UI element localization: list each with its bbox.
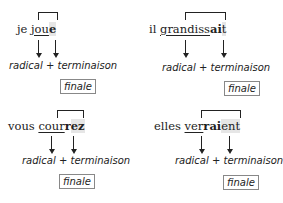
verb-form: il grandissait	[149, 22, 226, 36]
terminaison-bracket	[38, 12, 58, 20]
finale-box: finale	[224, 81, 260, 96]
terminaison-arrow	[73, 136, 74, 150]
terminaison-label: terminaison	[58, 60, 118, 71]
terminaison-part: e	[49, 22, 56, 36]
radical-label: radical	[22, 155, 56, 166]
plus-sign: +	[199, 62, 207, 73]
terminaison-arrow	[55, 40, 56, 54]
plus-sign: +	[212, 155, 220, 166]
finale-part: ent	[221, 119, 240, 133]
radical-terminaison-label: radical + terminaison	[22, 155, 130, 166]
terminaison-part: ai	[210, 22, 222, 36]
finale-box: finale	[60, 79, 96, 94]
radical-label: radical	[9, 60, 43, 71]
verb-form: vous courrez	[8, 119, 85, 133]
pronoun: elles	[154, 119, 181, 133]
terminaison-bracket	[201, 110, 241, 118]
radical-arrow	[185, 40, 186, 54]
verb-form: elles verraient	[154, 119, 240, 133]
finale-box: finale	[59, 174, 95, 189]
plus-sign: +	[46, 60, 54, 71]
pronoun: je	[17, 22, 27, 36]
pronoun: vous	[8, 119, 35, 133]
finale-part: t	[222, 22, 227, 36]
radical-part: jou	[31, 22, 49, 36]
example-elles-verraient: elles verraient radical + terminaison fi…	[141, 100, 282, 200]
verb-form: je joue	[17, 22, 56, 36]
terminaison-arrow	[223, 40, 224, 54]
radical-label: radical	[175, 155, 209, 166]
radical-label: radical	[162, 62, 196, 73]
radical-arrow	[201, 136, 202, 150]
radical-part: ver	[185, 119, 204, 133]
radical-terminaison-label: radical + terminaison	[9, 60, 117, 71]
radical-part: grandiss	[160, 22, 210, 36]
pronoun: il	[149, 22, 156, 36]
radical-arrow	[38, 40, 39, 54]
terminaison-label: terminaison	[224, 155, 283, 166]
example-je-joue: je joue radical + terminaison finale	[0, 0, 141, 100]
terminaison-label: terminaison	[71, 155, 131, 166]
finale-box: finale	[223, 175, 259, 190]
terminaison-arrow	[229, 136, 230, 150]
terminaison-part: rai	[203, 119, 221, 133]
finale-part: ez	[71, 119, 85, 133]
radical-terminaison-label: radical + terminaison	[175, 155, 283, 166]
terminaison-bracket	[57, 110, 84, 118]
plus-sign: +	[59, 155, 67, 166]
terminaison-bracket	[185, 12, 226, 20]
radical-arrow	[51, 136, 52, 150]
terminaison-label: terminaison	[211, 62, 271, 73]
terminaison-part: r	[65, 119, 71, 133]
radical-terminaison-label: radical + terminaison	[162, 62, 270, 73]
example-vous-courrez: vous courrez radical + terminaison final…	[0, 100, 141, 200]
example-il-grandissait: il grandissait radical + terminaison fin…	[141, 0, 282, 100]
radical-part: cour	[38, 119, 64, 133]
